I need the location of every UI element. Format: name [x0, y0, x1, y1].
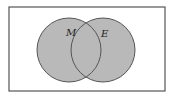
- venn-diagram: M E: [0, 0, 172, 97]
- set-e-label: E: [100, 28, 109, 39]
- set-m-label: M: [65, 27, 77, 38]
